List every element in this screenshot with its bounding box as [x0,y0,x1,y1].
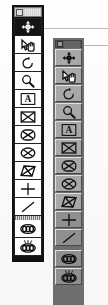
window-restore-icon[interactable] [16,9,23,16]
tool-button-parallelogram-x[interactable] [14,162,42,180]
zoom-magnifier-icon [61,105,77,119]
window-restore-icon[interactable] [57,41,63,47]
ellipse-x-icon [20,146,36,160]
tool-button-rectangle-x[interactable] [55,139,82,156]
rounded-rect-x-icon [61,159,77,173]
diagonal-line-icon [20,200,36,214]
callout-rule-top [44,28,108,29]
tool-button-parallelogram-x[interactable] [55,193,82,210]
tool-palette-left[interactable]: A [12,5,44,262]
palette-right-button-stack: A [55,49,82,285]
chain-links-icon [20,222,36,236]
parallelogram-x-icon [61,195,77,209]
zoom-magnifier-icon [20,74,36,88]
tool-button-pan-move[interactable] [14,18,42,36]
palette-left-title-grip[interactable] [24,9,40,16]
tool-button-rounded-rect-x[interactable] [55,157,82,174]
pan-move-icon [20,20,36,34]
tool-button-text-box[interactable]: A [55,121,82,138]
palette-left-button-stack: A [14,18,42,256]
ellipse-x-icon [61,177,77,191]
tool-button-zoom-magnifier[interactable] [55,103,82,120]
callout-rule-bottom [84,45,108,46]
chain-links-icon [61,252,77,266]
tool-button-chain-links[interactable] [55,250,82,267]
text-box-icon: A [61,123,77,137]
parallelogram-x-icon [20,164,36,178]
tool-button-rotate[interactable] [55,85,82,102]
burst-links-icon [61,270,77,284]
screenshot-canvas: A [0,0,108,305]
text-box-icon: A [20,92,36,106]
svg-text:A: A [25,94,32,104]
tool-button-diagonal-line[interactable] [55,229,82,246]
pan-move-icon [61,51,77,65]
tool-button-chain-links[interactable] [14,220,42,238]
tool-button-burst-links[interactable] [55,268,82,285]
palette-left-titlebar[interactable] [14,7,42,17]
tool-button-diagonal-line[interactable] [14,198,42,216]
tool-palette-right[interactable]: A [53,38,84,305]
tool-button-ellipse-x[interactable] [55,175,82,192]
svg-text:A: A [65,125,72,135]
tool-button-rectangle-x[interactable] [14,108,42,126]
rounded-rect-x-icon [20,128,36,142]
rotate-icon [61,87,77,101]
tool-button-hand-select[interactable] [55,67,82,84]
tool-button-burst-links[interactable] [14,238,42,256]
burst-links-icon [20,240,36,254]
tool-button-crosshair-plus[interactable] [14,180,42,198]
crosshair-plus-icon [61,213,77,227]
crosshair-plus-icon [20,182,36,196]
tool-button-crosshair-plus[interactable] [55,211,82,228]
tool-button-rotate[interactable] [14,54,42,72]
tool-button-zoom-magnifier[interactable] [14,72,42,90]
tool-button-hand-select[interactable] [14,36,42,54]
rectangle-x-icon [20,110,36,124]
tool-button-ellipse-x[interactable] [14,144,42,162]
rotate-icon [20,56,36,70]
palette-right-title-grip[interactable] [64,41,80,48]
tool-button-text-box[interactable]: A [14,90,42,108]
rectangle-x-icon [61,141,77,155]
tool-button-rounded-rect-x[interactable] [14,126,42,144]
palette-right-titlebar[interactable] [55,40,82,48]
diagonal-line-icon [61,231,77,245]
hand-select-icon [20,38,36,52]
hand-select-icon [61,69,77,83]
tool-button-pan-move[interactable] [55,49,82,66]
